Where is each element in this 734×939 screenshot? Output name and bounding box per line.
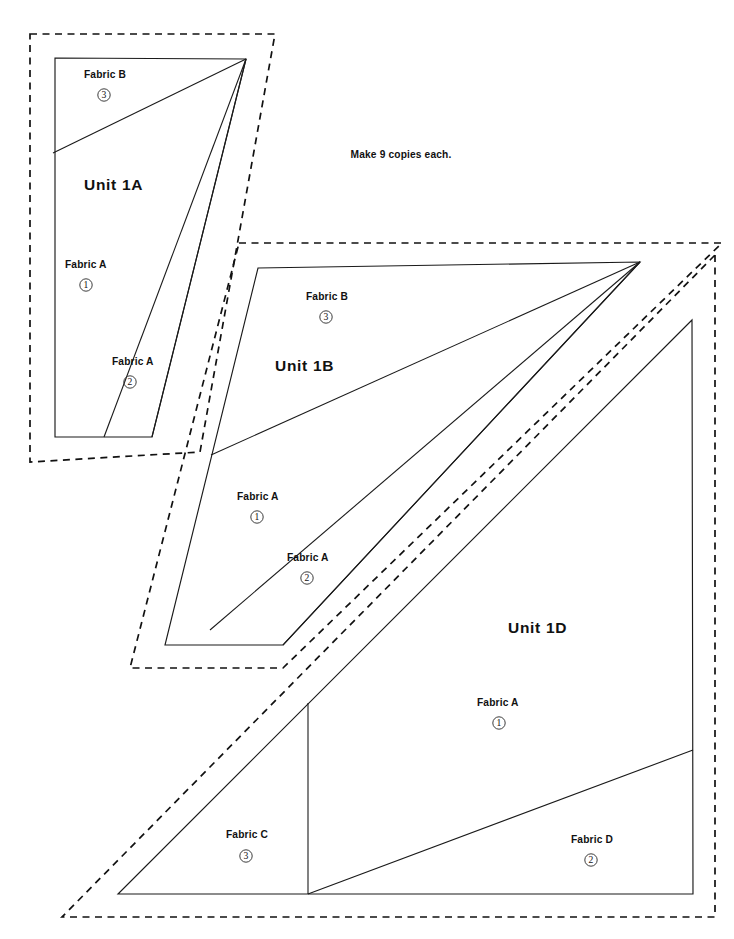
unit-1b-fabric-a2-number: 2 <box>305 572 310 583</box>
unit-1d-fabric-c-number: 3 <box>244 850 249 861</box>
unit-1d-cutting-line <box>62 255 715 917</box>
unit-1d-sewing-outline <box>118 320 693 894</box>
unit-1d-fabric-c-label: Fabric C <box>226 829 268 840</box>
unit-1b-cutting-line <box>130 243 722 668</box>
unit-1b-fabric-b-number: 3 <box>324 311 329 322</box>
unit-1b-fabric-a2-label: Fabric A <box>287 552 329 563</box>
unit-1d-fabric-a1-number: 1 <box>497 717 502 728</box>
unit-1d-group: Unit 1D Fabric A 1 Fabric C 3 Fabric D 2 <box>62 255 715 917</box>
unit-1b-fabric-b-label: Fabric B <box>306 291 348 302</box>
unit-1a-seam-fabricb-fabrica <box>53 59 246 153</box>
unit-1a-seam-a1-a2 <box>104 59 246 437</box>
unit-1b-fabric-a1-number: 1 <box>255 511 260 522</box>
unit-1a-fabric-b-label: Fabric B <box>84 69 126 80</box>
unit-1b-seam-a1-a2 <box>210 262 640 630</box>
unit-1b-group: Unit 1B Fabric B 3 Fabric A 1 Fabric A 2 <box>130 243 722 668</box>
unit-1a-title: Unit 1A <box>84 176 143 193</box>
unit-1d-fabric-d-number: 2 <box>589 854 594 865</box>
unit-1d-seam-fabricc-fabricd <box>308 750 693 894</box>
unit-1a-seam-a2-edge <box>152 59 246 437</box>
unit-1a-fabric-b-number: 3 <box>102 89 107 100</box>
pattern-page: Unit 1A Fabric B 3 Fabric A 1 Fabric A 2… <box>0 0 734 939</box>
unit-1a-fabric-a2-label: Fabric A <box>112 356 154 367</box>
unit-1d-fabric-a1-label: Fabric A <box>477 697 519 708</box>
unit-1b-title: Unit 1B <box>275 357 334 374</box>
unit-1b-seam-a2-edge <box>283 262 640 645</box>
unit-1a-fabric-a2-number: 2 <box>128 376 133 387</box>
unit-1a-fabric-a1-number: 1 <box>84 279 89 290</box>
pattern-drawing: Unit 1A Fabric B 3 Fabric A 1 Fabric A 2… <box>0 0 734 939</box>
unit-1b-fabric-a1-label: Fabric A <box>237 491 279 502</box>
unit-1d-fabric-d-label: Fabric D <box>571 834 613 845</box>
unit-1d-title: Unit 1D <box>508 619 567 636</box>
copies-note: Make 9 copies each. <box>351 149 452 160</box>
unit-1a-fabric-a1-label: Fabric A <box>65 259 107 270</box>
unit-1b-sewing-outline <box>165 262 640 645</box>
unit-1a-sewing-outline <box>55 58 246 437</box>
